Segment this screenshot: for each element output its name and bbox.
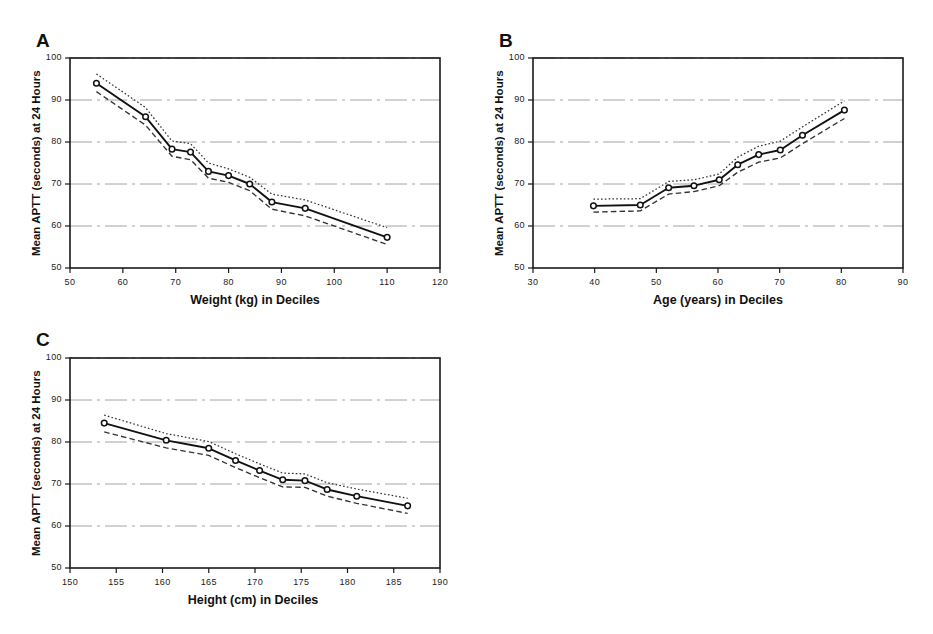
series-line-lower-confidence-limit <box>104 432 407 513</box>
x-tick-label: 50 <box>636 277 676 287</box>
panel-b: B Mean APTT (seconds) at 24 Hours Age (y… <box>463 0 933 317</box>
data-point-marker <box>638 202 644 208</box>
plot-frame <box>533 58 903 268</box>
x-tick-label: 185 <box>374 577 414 587</box>
x-tick-label: 160 <box>143 577 183 587</box>
y-tick-label: 80 <box>28 136 62 146</box>
x-tick-label: 190 <box>420 577 460 587</box>
y-tick-label: 70 <box>491 178 525 188</box>
data-point-marker <box>188 149 194 155</box>
x-tick-label: 60 <box>103 277 143 287</box>
data-point-marker <box>169 146 175 152</box>
y-tick-label: 50 <box>28 562 62 572</box>
data-point-marker <box>354 493 360 499</box>
y-tick-label: 50 <box>28 262 62 272</box>
data-point-marker <box>842 107 848 113</box>
panel-c: C Mean APTT (seconds) at 24 Hours Height… <box>0 300 470 630</box>
x-tick-label: 70 <box>760 277 800 287</box>
panel-c-plot <box>0 300 470 590</box>
x-tick-label: 60 <box>698 277 738 287</box>
series-line-mean <box>96 83 387 237</box>
data-point-marker <box>800 132 806 138</box>
y-tick-label: 70 <box>28 178 62 188</box>
data-point-marker <box>206 169 212 175</box>
y-tick-label: 90 <box>28 394 62 404</box>
panel-b-plot <box>463 0 933 290</box>
y-tick-label: 90 <box>491 94 525 104</box>
series-line-mean <box>104 423 407 506</box>
y-tick-label: 90 <box>28 94 62 104</box>
data-point-marker <box>233 458 239 464</box>
x-tick-label: 50 <box>50 277 90 287</box>
x-tick-label: 80 <box>209 277 249 287</box>
x-tick-label: 170 <box>235 577 275 587</box>
y-tick-label: 100 <box>28 352 62 362</box>
data-point-marker <box>716 177 722 183</box>
x-tick-label: 120 <box>420 277 460 287</box>
x-tick-label: 165 <box>189 577 229 587</box>
y-tick-label: 50 <box>491 262 525 272</box>
data-point-marker <box>269 199 275 205</box>
data-point-marker <box>384 235 390 241</box>
data-point-marker <box>777 147 783 153</box>
data-point-marker <box>163 438 169 444</box>
data-point-marker <box>247 181 253 187</box>
data-point-marker <box>666 185 672 191</box>
series-line-upper-confidence-limit <box>104 415 407 498</box>
y-tick-label: 80 <box>491 136 525 146</box>
y-tick-label: 60 <box>491 220 525 230</box>
panel-b-x-axis-label: Age (years) in Deciles <box>533 293 903 307</box>
y-tick-label: 100 <box>491 52 525 62</box>
data-point-marker <box>280 477 286 483</box>
data-point-marker <box>302 478 308 484</box>
x-tick-label: 90 <box>261 277 301 287</box>
x-tick-label: 155 <box>96 577 136 587</box>
x-tick-label: 30 <box>513 277 553 287</box>
panel-a: A Mean APTT (seconds) at 24 Hours Weight… <box>0 0 470 317</box>
x-tick-label: 80 <box>821 277 861 287</box>
y-tick-label: 60 <box>28 220 62 230</box>
data-point-marker <box>735 162 741 168</box>
data-point-marker <box>94 80 100 86</box>
data-point-marker <box>257 468 263 474</box>
data-point-marker <box>206 446 212 452</box>
x-tick-label: 90 <box>883 277 923 287</box>
data-point-marker <box>756 152 762 158</box>
data-point-marker <box>405 503 411 509</box>
x-tick-label: 175 <box>281 577 321 587</box>
data-point-marker <box>302 206 308 212</box>
x-tick-label: 150 <box>50 577 90 587</box>
y-tick-label: 60 <box>28 520 62 530</box>
data-point-marker <box>324 487 330 493</box>
data-point-marker <box>101 420 107 426</box>
y-tick-label: 100 <box>28 52 62 62</box>
panel-a-plot <box>0 0 470 290</box>
x-tick-label: 180 <box>328 577 368 587</box>
plot-frame <box>70 358 440 568</box>
data-point-marker <box>591 203 597 209</box>
data-point-marker <box>143 114 149 120</box>
x-tick-label: 110 <box>367 277 407 287</box>
y-tick-label: 80 <box>28 436 62 446</box>
x-tick-label: 40 <box>575 277 615 287</box>
series-line-mean <box>593 110 844 206</box>
panel-c-x-axis-label: Height (cm) in Deciles <box>68 593 438 607</box>
data-point-marker <box>226 173 232 179</box>
data-point-marker <box>691 183 697 189</box>
series-line-upper-confidence-limit <box>96 74 387 228</box>
y-tick-label: 70 <box>28 478 62 488</box>
x-tick-label: 100 <box>314 277 354 287</box>
x-tick-label: 70 <box>156 277 196 287</box>
